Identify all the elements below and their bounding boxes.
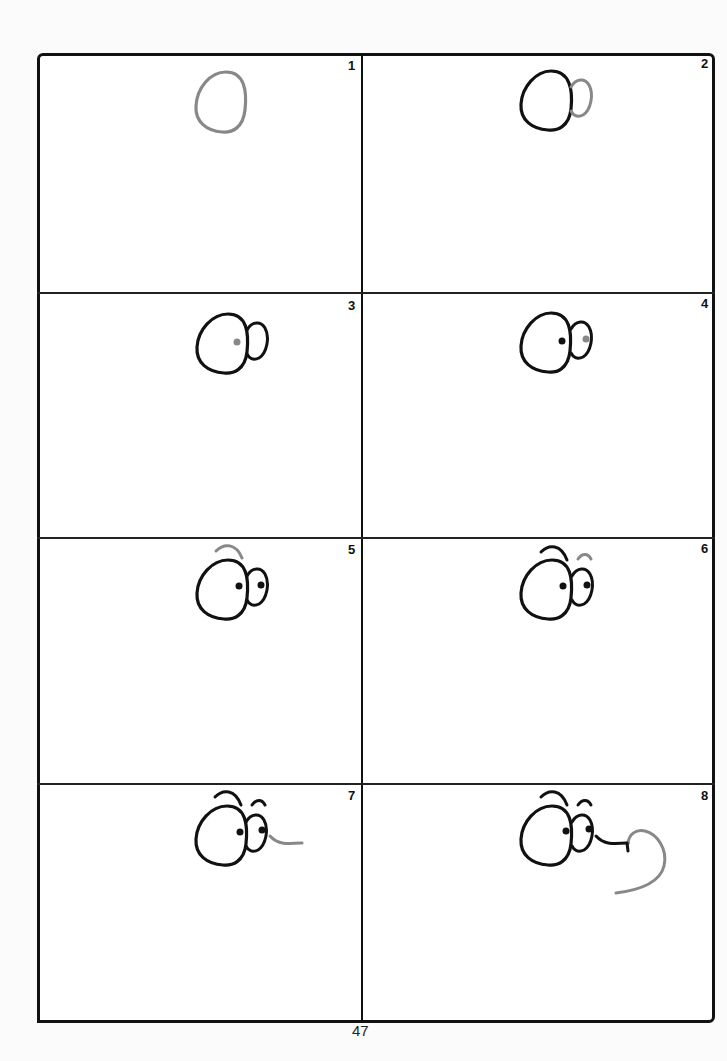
step-7-drawing bbox=[196, 792, 302, 865]
step-4-drawing bbox=[521, 313, 592, 372]
step-5-drawing bbox=[197, 546, 268, 619]
step-2-drawing bbox=[521, 71, 592, 130]
step-drawings bbox=[0, 0, 727, 1061]
step-8-drawing bbox=[521, 792, 665, 893]
workbook-page: 1 2 3 4 5 6 7 8 bbox=[0, 0, 727, 1061]
step-3-drawing bbox=[197, 314, 268, 373]
page-number: 47 bbox=[352, 1022, 369, 1039]
step-1-drawing bbox=[196, 72, 246, 132]
step-6-drawing bbox=[521, 547, 593, 619]
